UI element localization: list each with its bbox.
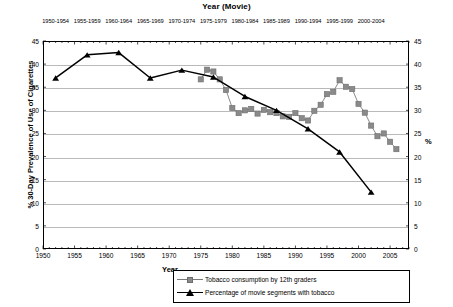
x-tick-label: 1980 (225, 252, 240, 259)
top-axis-tick-label: 1985-1989 (263, 18, 290, 24)
gridline (44, 158, 408, 159)
chart-legend: Tobacco consumption by 12th graders Perc… (173, 270, 410, 303)
x-axis-tick-labels: 1950195519601965197019751980198519901995… (43, 252, 409, 264)
y-tick-label: 40 (414, 61, 421, 68)
y-tick-label: 30 (414, 107, 421, 114)
top-axis-tick-label: 1975-1979 (200, 18, 227, 24)
y-tick-label: 5 (35, 222, 39, 229)
x-tick-label: 1965 (130, 252, 145, 259)
y-tick-label: 35 (414, 84, 421, 91)
top-axis-tick-label: 2000-2004 (358, 18, 385, 24)
x-tick-label: 1975 (193, 252, 208, 259)
x-tick-label: 1990 (288, 252, 303, 259)
legend-label-tobacco-consumption: Tobacco consumption by 12th graders (203, 276, 316, 283)
x-tick-label: 1995 (320, 252, 335, 259)
y-axis-right-title: % (425, 137, 445, 146)
x-tick-label: 2005 (383, 252, 398, 259)
y-tick-label: 20 (414, 153, 421, 160)
gridline (44, 88, 408, 89)
y-tick-label: 0 (414, 246, 418, 253)
gridline (44, 204, 408, 205)
y-tick-label: 45 (414, 38, 421, 45)
top-axis-tick-label: 1990-1994 (295, 18, 322, 24)
y-tick-label: 45 (32, 38, 39, 45)
top-axis-tick-label: 1965-1969 (137, 18, 164, 24)
x-tick-label: 1985 (257, 252, 272, 259)
plot-area (43, 41, 409, 249)
x-tick-label: 1960 (99, 252, 114, 259)
top-axis-tick-label: 1950-1954 (42, 18, 69, 24)
chart-title: Year (Movie) (0, 2, 453, 11)
top-axis-tick-label: 1980-1984 (232, 18, 259, 24)
gridline (44, 181, 408, 182)
y-tick-label: 5 (414, 222, 418, 229)
gridline (44, 65, 408, 66)
y-tick-label: 15 (414, 176, 421, 183)
top-axis-tick-label: 1995-1999 (326, 18, 353, 24)
y-axis-left-title: % 30-Day Prevalence of Use of Cigarettes (26, 50, 35, 220)
top-axis-tick-labels: 1950-19541955-19591960-19641965-19691970… (43, 18, 409, 30)
legend-item-tobacco-consumption: Tobacco consumption by 12th graders (177, 273, 406, 286)
top-axis-tick-label: 1955-1959 (74, 18, 101, 24)
top-axis-tick-label: 1970-1974 (168, 18, 195, 24)
gridline (44, 134, 408, 135)
x-tick-label: 1955 (67, 252, 82, 259)
x-tick-label: 1950 (36, 252, 51, 259)
gridline (44, 111, 408, 112)
y-tick-label: 25 (414, 130, 421, 137)
legend-marker-triangle (177, 287, 203, 298)
gridline (44, 227, 408, 228)
legend-marker-square (177, 274, 203, 285)
legend-item-movie-segments: Percentage of movie segments with tobacc… (177, 286, 406, 299)
x-tick-label: 2000 (351, 252, 366, 259)
chart-figure: Year (Movie) 1950-19541955-19591960-1964… (0, 0, 453, 307)
legend-label-movie-segments: Percentage of movie segments with tobacc… (203, 289, 334, 296)
x-tick-label: 1970 (162, 252, 177, 259)
y-tick-label: 10 (414, 199, 421, 206)
top-axis-tick-label: 1960-1964 (105, 18, 132, 24)
